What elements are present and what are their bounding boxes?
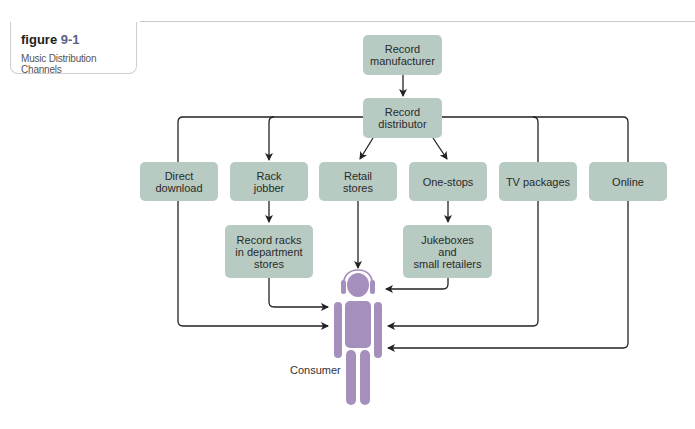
consumer-label: Consumer bbox=[290, 364, 341, 376]
node-direct-download: Direct download bbox=[140, 162, 218, 201]
connector-lines bbox=[0, 0, 695, 429]
node-record-distributor: Record distributor bbox=[363, 98, 442, 138]
consumer-icon bbox=[334, 270, 382, 405]
node-tv-packages: TV packages bbox=[499, 162, 577, 201]
node-record-manufacturer: Record manufacturer bbox=[363, 35, 442, 75]
node-retail-stores: Retail stores bbox=[319, 162, 397, 201]
node-online: Online bbox=[589, 162, 667, 201]
node-rack-jobber: Rack jobber bbox=[230, 162, 308, 201]
node-jukeboxes: Jukeboxes and small retailers bbox=[403, 225, 492, 278]
node-one-stops: One-stops bbox=[409, 162, 487, 201]
node-record-racks: Record racks in department stores bbox=[225, 225, 313, 278]
